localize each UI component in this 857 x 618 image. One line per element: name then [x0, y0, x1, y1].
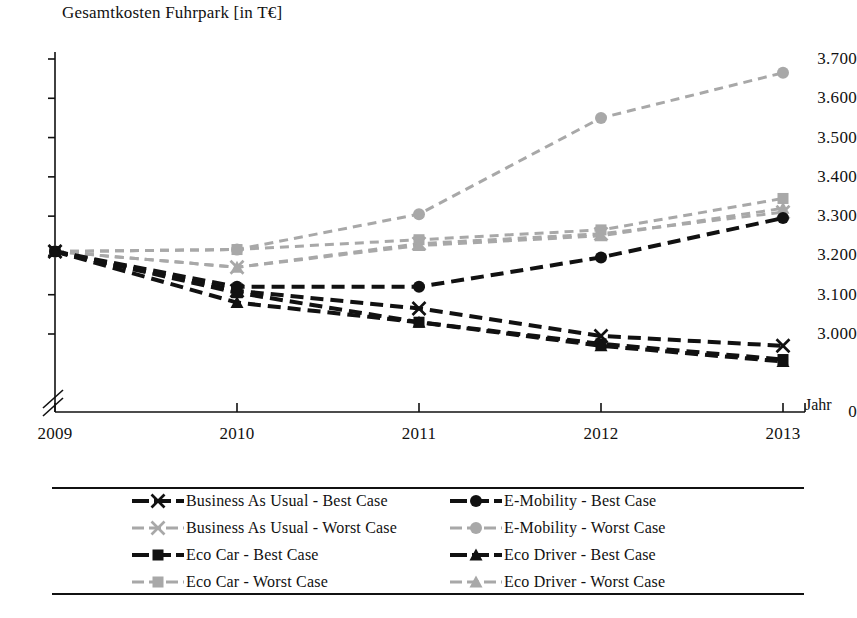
data-point-marker-circle	[595, 112, 607, 124]
data-point-marker-circle	[413, 281, 425, 293]
legend-marker-triangle-icon	[448, 546, 504, 564]
series-line	[50, 246, 789, 365]
legend-marker-triangle-icon	[448, 573, 504, 591]
data-point-marker-circle	[777, 67, 789, 79]
legend-item[interactable]: E-Mobility - Best Case	[448, 492, 808, 510]
axes	[43, 52, 805, 416]
legend-marker-circle-icon	[448, 492, 504, 510]
legend-bottom-divider	[52, 593, 804, 595]
legend-label: Business As Usual - Best Case	[186, 492, 388, 510]
data-point-marker-circle	[470, 495, 482, 507]
legend-item[interactable]: Eco Driver - Best Case	[448, 546, 808, 564]
legend-label: Eco Car - Best Case	[186, 546, 319, 564]
legend-item[interactable]: Eco Car - Best Case	[130, 546, 448, 564]
legend-item[interactable]: Business As Usual - Worst Case	[130, 519, 448, 537]
legend-label: Business As Usual - Worst Case	[186, 519, 397, 537]
data-point-marker-square	[153, 549, 164, 560]
legend-marker-x-icon	[130, 519, 186, 537]
legend-marker-x-icon	[130, 492, 186, 510]
legend-marker-circle-icon	[448, 519, 504, 537]
data-point-marker-square	[153, 576, 164, 587]
legend-item[interactable]: Eco Driver - Worst Case	[448, 573, 808, 591]
data-point-marker-circle	[777, 212, 789, 224]
legend-marker-square-icon	[130, 573, 186, 591]
legend-label: E-Mobility - Best Case	[504, 492, 656, 510]
series-line	[49, 67, 789, 258]
legend-label: Eco Driver - Best Case	[504, 546, 656, 564]
legend: Business As Usual - Best CaseE-Mobility …	[0, 487, 857, 595]
legend-label: Eco Car - Worst Case	[186, 573, 328, 591]
data-point-marker-circle	[231, 281, 243, 293]
legend-item[interactable]: E-Mobility - Worst Case	[448, 519, 808, 537]
legend-item[interactable]: Business As Usual - Best Case	[130, 492, 448, 510]
figure-caption	[52, 600, 804, 616]
figure-root: Gesamtkosten Fuhrpark [in T€] 03.0003.10…	[0, 0, 857, 618]
plot-area	[0, 0, 857, 470]
data-point-marker-circle	[470, 522, 482, 534]
data-point-marker-circle	[231, 244, 243, 256]
data-point-marker-circle	[595, 251, 607, 263]
data-point-marker-circle	[413, 208, 425, 220]
legend-label: Eco Driver - Worst Case	[504, 573, 665, 591]
legend-label: E-Mobility - Worst Case	[504, 519, 666, 537]
legend-marker-square-icon	[130, 546, 186, 564]
legend-item[interactable]: Eco Car - Worst Case	[130, 573, 448, 591]
